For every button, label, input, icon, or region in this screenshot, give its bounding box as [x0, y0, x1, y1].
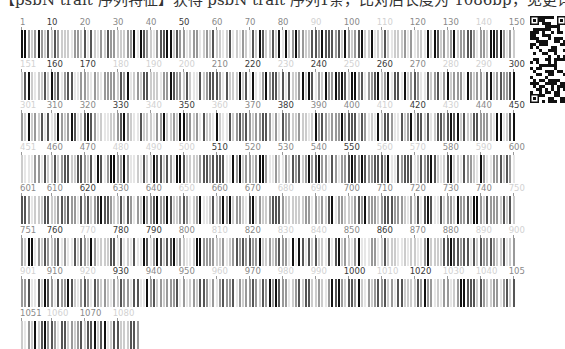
- nucleotide-bar: [127, 30, 129, 58]
- nucleotide-bar: [120, 279, 122, 307]
- nucleotide-bar: [189, 238, 191, 266]
- nucleotide-bar: [107, 279, 109, 307]
- nucleotide-bar: [127, 155, 129, 183]
- nucleotide-bar: [407, 238, 409, 266]
- nucleotide-bar: [338, 279, 340, 307]
- nucleotide-bar: [315, 238, 317, 266]
- nucleotide-bar: [77, 321, 79, 349]
- nucleotide-bar: [361, 30, 363, 58]
- nucleotide-bar: [255, 155, 257, 183]
- nucleotide-bar: [156, 155, 158, 183]
- position-label: 30: [113, 18, 124, 27]
- nucleotide-bar: [424, 155, 426, 183]
- nucleotide-bar: [94, 113, 96, 141]
- nucleotide-bar: [470, 155, 472, 183]
- nucleotide-bar: [179, 238, 181, 266]
- nucleotide-bar: [272, 279, 274, 307]
- nucleotide-bar: [113, 196, 115, 224]
- nucleotide-bar: [321, 30, 323, 58]
- nucleotide-bar: [443, 238, 445, 266]
- nucleotide-bar: [38, 279, 40, 307]
- nucleotide-bar: [437, 238, 439, 266]
- nucleotide-bar: [430, 238, 432, 266]
- nucleotide-bar: [44, 238, 46, 266]
- nucleotide-bar: [94, 30, 96, 58]
- nucleotide-bar: [453, 196, 455, 224]
- nucleotide-bar: [308, 30, 310, 58]
- nucleotide-bar: [404, 238, 406, 266]
- nucleotide-bar: [443, 72, 445, 100]
- position-label: 270: [410, 60, 426, 69]
- nucleotide-bar: [123, 155, 125, 183]
- nucleotide-bar: [443, 155, 445, 183]
- nucleotide-bar: [503, 196, 505, 224]
- nucleotide-bar: [186, 196, 188, 224]
- nucleotide-bar: [404, 113, 406, 141]
- nucleotide-bar: [176, 113, 178, 141]
- nucleotide-bar: [384, 72, 386, 100]
- nucleotide-bar: [417, 72, 419, 100]
- nucleotide-bar: [361, 279, 363, 307]
- nucleotide-bar: [430, 72, 432, 100]
- nucleotide-bar: [467, 279, 469, 307]
- nucleotide-bar: [427, 196, 429, 224]
- nucleotide-bar: [176, 72, 178, 100]
- nucleotide-bar: [127, 279, 129, 307]
- nucleotide-bar: [377, 238, 379, 266]
- nucleotide-bar: [480, 155, 482, 183]
- position-label: 240: [311, 60, 327, 69]
- nucleotide-bar: [361, 196, 363, 224]
- nucleotide-bar: [137, 196, 139, 224]
- nucleotide-bar: [450, 238, 452, 266]
- nucleotide-bar: [255, 72, 257, 100]
- nucleotide-bar: [87, 279, 89, 307]
- nucleotide-bar: [315, 279, 317, 307]
- position-label: 105: [509, 267, 525, 276]
- nucleotide-bar: [38, 72, 40, 100]
- position-label: 90: [311, 18, 322, 27]
- nucleotide-bar: [51, 72, 53, 100]
- nucleotide-bar: [222, 113, 224, 141]
- nucleotide-bar: [401, 113, 403, 141]
- nucleotide-bar: [232, 30, 234, 58]
- nucleotide-bar: [427, 238, 429, 266]
- nucleotide-bar: [47, 72, 49, 100]
- nucleotide-bar: [259, 113, 261, 141]
- nucleotide-bar: [110, 155, 112, 183]
- nucleotide-bar: [160, 238, 162, 266]
- nucleotide-bar: [130, 196, 132, 224]
- nucleotide-bar: [57, 321, 59, 349]
- nucleotide-bar: [156, 196, 158, 224]
- nucleotide-bar: [193, 238, 195, 266]
- nucleotide-bar: [163, 279, 165, 307]
- nucleotide-bar: [137, 155, 139, 183]
- nucleotide-bar: [61, 238, 63, 266]
- nucleotide-bar: [176, 155, 178, 183]
- nucleotide-bar: [496, 196, 498, 224]
- nucleotide-bar: [120, 196, 122, 224]
- nucleotide-bar: [335, 72, 337, 100]
- nucleotide-bar: [146, 113, 148, 141]
- nucleotide-bar: [123, 321, 125, 349]
- nucleotide-bar: [308, 196, 310, 224]
- nucleotide-bar: [166, 196, 168, 224]
- nucleotide-bar: [371, 238, 373, 266]
- nucleotide-bar: [140, 279, 142, 307]
- barcode-row: 1102030405060708090100110120130140150: [0, 18, 530, 58]
- nucleotide-bar: [470, 30, 472, 58]
- nucleotide-bar: [450, 279, 452, 307]
- nucleotide-bar: [272, 238, 274, 266]
- nucleotide-bar: [476, 279, 478, 307]
- nucleotide-bar: [242, 155, 244, 183]
- nucleotide-bar: [483, 196, 485, 224]
- nucleotide-bar: [503, 30, 505, 58]
- nucleotide-bar: [391, 238, 393, 266]
- nucleotide-bar: [440, 72, 442, 100]
- nucleotide-bar: [183, 72, 185, 100]
- nucleotide-bar: [57, 155, 59, 183]
- nucleotide-bar: [117, 196, 119, 224]
- nucleotide-bar: [77, 113, 79, 141]
- nucleotide-bar: [64, 279, 66, 307]
- nucleotide-bar: [143, 30, 145, 58]
- nucleotide-bar: [265, 196, 267, 224]
